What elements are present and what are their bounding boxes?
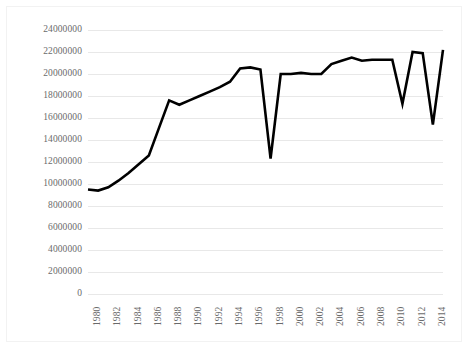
x-axis-tick-label: 1996 [254, 307, 264, 326]
y-axis-tick-label: 16000000 [43, 112, 82, 122]
x-axis-tick-label: 1986 [153, 307, 163, 326]
y-axis-tick-label: 14000000 [43, 134, 82, 144]
x-axis-tick-label: 2000 [295, 307, 305, 326]
y-axis-tick-label: 18000000 [43, 90, 82, 100]
x-axis-tick-label: 2006 [356, 307, 366, 326]
x-axis-tick-label: 1980 [92, 307, 102, 326]
y-axis-tick-label: 0 [77, 288, 82, 298]
x-axis-tick-label: 2012 [417, 307, 427, 326]
y-axis-tick-label: 4000000 [48, 244, 82, 254]
x-axis-tick-label: 1992 [214, 307, 224, 326]
x-axis-tick-label: 2002 [315, 307, 325, 326]
y-axis-tick-label: 24000000 [43, 24, 82, 34]
x-axis-tick-label: 1990 [193, 307, 203, 326]
y-axis-tick-label: 8000000 [48, 200, 82, 210]
y-axis-tick-label: 6000000 [48, 222, 82, 232]
y-axis-tick-label: 22000000 [43, 46, 82, 56]
y-axis-tick-label: 12000000 [43, 156, 82, 166]
x-axis-tick-label: 2004 [335, 307, 345, 326]
x-axis-tick-label: 2014 [437, 307, 447, 326]
x-axis-tick-label: 1984 [133, 307, 143, 326]
y-axis-tick-label: 20000000 [43, 68, 82, 78]
x-axis-tick-label: 2008 [376, 307, 386, 326]
x-axis-tick-label: 2010 [396, 307, 406, 326]
x-axis-tick-label: 1988 [173, 307, 183, 326]
chart-container: 2400000022000000200000001800000016000000… [0, 0, 469, 349]
x-axis-tick-label: 1994 [234, 307, 244, 326]
x-axis-tick-label: 1998 [275, 307, 285, 326]
y-axis-tick-label: 2000000 [48, 266, 82, 276]
x-axis-tick-label: 1982 [112, 307, 122, 326]
y-axis-tick-label: 10000000 [43, 178, 82, 188]
data-series-line [88, 50, 443, 191]
